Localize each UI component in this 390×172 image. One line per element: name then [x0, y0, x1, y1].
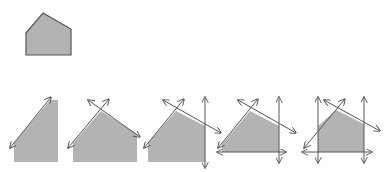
step-5-clip-left-final: [302, 97, 380, 163]
clipped-polygon: [73, 111, 137, 162]
step-3-clip-right: [144, 97, 221, 168]
clipping-steps: [10, 97, 380, 168]
clipped-polygon: [318, 110, 364, 152]
clipped-polygon: [222, 111, 279, 152]
step-1-clip-left-diagonal: [10, 97, 58, 162]
step-4-clip-bottom: [217, 97, 296, 163]
original-house-polygon: [26, 13, 71, 55]
clipping-diagram: [0, 0, 390, 172]
step-2-clip-top-edges: [68, 99, 140, 162]
original-polygon: [26, 13, 71, 55]
clipped-polygon: [14, 100, 58, 162]
